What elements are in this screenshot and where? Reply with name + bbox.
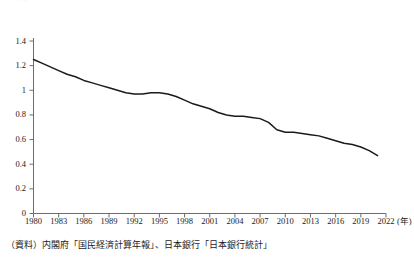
x-axis-tick-label: 2013 [302, 217, 319, 226]
x-axis-tick-label: 2007 [252, 217, 269, 226]
y-axis-ticks [30, 41, 34, 214]
y-axis-tick-label: 0.4 [0, 160, 26, 169]
x-axis-tick-label: 2019 [352, 217, 369, 226]
x-axis-tick-label: 1980 [25, 217, 42, 226]
y-axis-tick-label: 1 [0, 86, 26, 95]
chart-figure: 図表 日本のマネーマルチプライヤー（マネーストック／マネタリーベース）の推移 0… [0, 0, 414, 258]
x-axis-tick-label: 2010 [277, 217, 294, 226]
x-axis-tick-label: 2022 [378, 217, 395, 226]
y-axis-tick-label: 1.2 [0, 61, 26, 70]
data-series-line [34, 59, 378, 155]
y-axis-tick-label: 1.4 [0, 37, 26, 46]
x-axis-tick-label: 1995 [151, 217, 168, 226]
x-axis-tick-label: 1992 [126, 217, 143, 226]
y-axis-tick-label: 0.2 [0, 184, 26, 193]
line-chart-plot [0, 0, 414, 232]
x-axis-tick-label: 1986 [75, 217, 92, 226]
y-axis-tick-label: 0 [0, 209, 26, 218]
axis-lines [34, 38, 387, 214]
x-axis-unit-label: (年) [397, 217, 412, 226]
x-axis-tick-label: 2001 [201, 217, 218, 226]
x-axis-tick-label: 1989 [101, 217, 118, 226]
x-axis-tick-label: 1983 [50, 217, 67, 226]
y-axis-tick-label: 0.6 [0, 135, 26, 144]
x-axis-tick-label: 2016 [327, 217, 344, 226]
x-axis-tick-label: 2004 [226, 217, 243, 226]
source-note: （資料）内閣府「国民経済計算年報」、日本銀行「日本銀行統計」 [6, 239, 272, 251]
y-axis-tick-label: 0.8 [0, 110, 26, 119]
x-axis-tick-label: 1998 [176, 217, 193, 226]
